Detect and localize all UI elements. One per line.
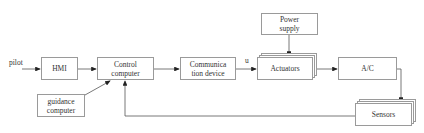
guidance-computer-block: guidance computer: [37, 94, 85, 117]
hmi-block: HMI: [41, 57, 78, 80]
aircraft-block: A/C: [338, 57, 397, 80]
control-computer-block: Control computer: [97, 57, 154, 80]
power-supply-block: Power supply: [261, 13, 318, 35]
sensors-block: Sensors: [355, 103, 412, 126]
signal-u-label: u: [245, 56, 249, 65]
pilot-label: pilot: [9, 58, 23, 67]
communication-device-block: Communica tion device: [180, 57, 236, 80]
actuators-block: Actuators: [257, 57, 313, 80]
